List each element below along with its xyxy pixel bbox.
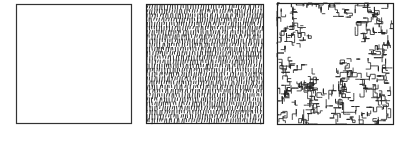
hatched-square (147, 5, 264, 125)
panel-empty-square (0, 0, 414, 149)
fractal-square (277, 3, 394, 125)
figure-canvas (0, 0, 414, 149)
empty-square-outline (17, 5, 132, 124)
